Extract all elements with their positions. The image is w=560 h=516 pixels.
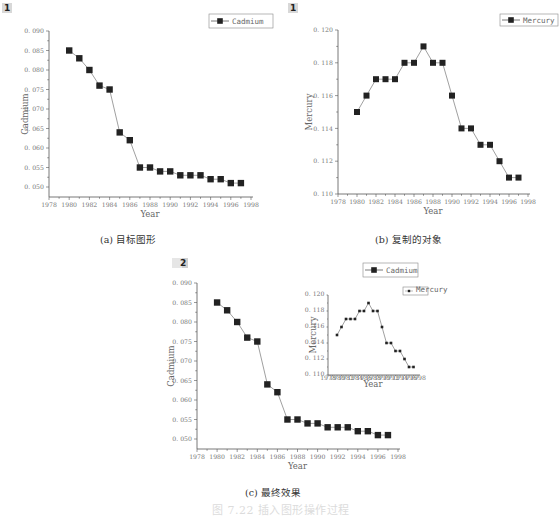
caption-b: (b) 复制的对象 (375, 232, 442, 246)
data-point (358, 310, 361, 313)
data-point (367, 302, 370, 305)
figure-caption: 图 7.22 插入图形操作过程 (212, 501, 350, 516)
data-point (412, 366, 415, 369)
y-tick-label: 0. 110 (305, 370, 325, 377)
data-point (390, 342, 393, 345)
data-point (399, 350, 402, 353)
chart-c-inset-mercury: 1978198019821984198619881990199219941996… (0, 0, 560, 516)
plot-area: 1978198019821984198619881990199219941996… (305, 290, 426, 389)
x-axis-title: Year (362, 379, 383, 389)
data-point (345, 318, 348, 321)
y-tick-label: 0. 120 (305, 290, 325, 297)
data-point (376, 310, 379, 313)
legend: Mercury (403, 285, 448, 295)
legend-marker-icon (408, 290, 410, 292)
data-point (403, 358, 406, 361)
caption-c: (c) 最终效果 (245, 485, 301, 499)
caption-a: (a) 目标图形 (100, 232, 156, 246)
data-point (408, 366, 411, 369)
data-point (394, 350, 397, 353)
data-point (363, 310, 366, 313)
y-axis-title: Mercury (308, 316, 318, 353)
data-point (372, 310, 375, 313)
data-point (340, 326, 343, 329)
x-tick-label: 1998 (410, 374, 426, 381)
data-point (381, 326, 384, 329)
data-point (336, 334, 339, 337)
data-point (385, 342, 388, 345)
data-point (349, 318, 352, 321)
series-line (337, 303, 414, 367)
y-tick-label: 0. 118 (305, 306, 325, 313)
data-point (354, 318, 357, 321)
legend-label: Mercury (416, 285, 448, 294)
y-tick-label: 0. 112 (305, 354, 325, 361)
